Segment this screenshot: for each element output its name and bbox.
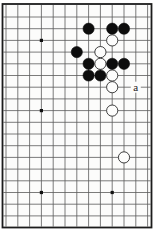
white-stone bbox=[107, 105, 118, 116]
black-stone bbox=[83, 70, 94, 81]
black-stone bbox=[107, 23, 118, 34]
white-stone bbox=[95, 58, 106, 69]
star-point-4 bbox=[111, 191, 114, 194]
black-stone bbox=[83, 58, 94, 69]
star-point-2 bbox=[40, 109, 43, 112]
star-point-1 bbox=[40, 39, 43, 42]
black-stone bbox=[107, 58, 118, 69]
white-stone bbox=[95, 47, 106, 58]
white-stone bbox=[118, 152, 129, 163]
black-stone bbox=[83, 23, 94, 34]
scanned-page: a bbox=[0, 0, 157, 232]
white-stone bbox=[107, 70, 118, 81]
star-point-3 bbox=[40, 191, 43, 194]
black-stone bbox=[95, 70, 106, 81]
black-stone bbox=[118, 23, 129, 34]
black-stone bbox=[71, 47, 82, 58]
white-stone bbox=[107, 35, 118, 46]
black-stone bbox=[118, 58, 129, 69]
white-stone bbox=[107, 82, 118, 93]
point-label-a: a bbox=[133, 81, 138, 93]
go-board-diagram: a bbox=[0, 0, 157, 232]
